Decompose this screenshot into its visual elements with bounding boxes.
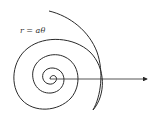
equation-label: r = aθ xyxy=(20,26,45,35)
spiral-figure xyxy=(0,0,152,132)
spiral-diagram: r = aθ xyxy=(0,0,152,132)
